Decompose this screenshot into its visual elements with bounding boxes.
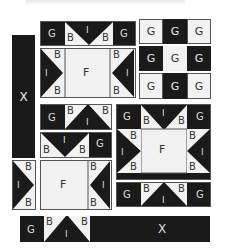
g-square: G (187, 46, 211, 71)
g-square: G (163, 46, 187, 71)
big-star-bottom-row: G B I B G (116, 182, 211, 207)
i-label: I (126, 68, 129, 78)
g-square: G (139, 73, 163, 99)
g-label: G (147, 52, 156, 65)
bottom-bar-piece: G B I B X (20, 216, 210, 242)
b-label: B (43, 145, 50, 155)
g-label: G (195, 25, 204, 38)
b-label: B (54, 50, 61, 60)
g-label: G (120, 29, 128, 39)
g-square: G (163, 73, 187, 99)
b-label: B (113, 50, 120, 60)
g-label: G (171, 52, 180, 65)
g-label: G (147, 80, 156, 93)
i-label: I (86, 117, 89, 127)
i-label: I (121, 147, 124, 157)
g-square: G (187, 73, 211, 99)
g-label: G (123, 190, 131, 200)
g-square: G (163, 19, 187, 44)
b-label: B (90, 162, 97, 172)
b-label: B (189, 162, 196, 172)
b-label: B (178, 116, 185, 126)
g-square: G (139, 19, 163, 44)
x-label: X (19, 90, 27, 104)
g-label: G (48, 113, 56, 123)
g-label: G (96, 139, 104, 149)
mid-row2-piece: B I B G (40, 132, 112, 158)
i-label: I (201, 147, 204, 157)
b-label: B (113, 86, 120, 96)
b-label: B (25, 198, 32, 208)
g-label: G (195, 52, 204, 65)
b-label: B (90, 198, 97, 208)
i-label: I (17, 180, 20, 190)
top-f-block: B I B F B I B (40, 48, 136, 98)
small-side-piece: B I B (12, 160, 36, 210)
top-edge-shadow (25, 0, 185, 5)
b-label: B (81, 217, 88, 227)
g-label: G (147, 25, 156, 38)
b-label: B (102, 33, 109, 43)
f-label: F (159, 145, 165, 155)
b-label: B (102, 106, 109, 116)
g-label: G (123, 112, 131, 122)
g-label: G (196, 112, 204, 122)
g-label: G (196, 190, 204, 200)
b-label: B (46, 217, 53, 227)
ggg-grid: G G G G G G G G G (139, 19, 211, 99)
i-label: I (86, 25, 89, 35)
b-label: B (130, 162, 137, 172)
b-label: B (67, 106, 74, 116)
g-label: G (48, 29, 56, 39)
b-label: B (178, 184, 185, 194)
x-column-piece: X (12, 35, 35, 158)
f-label: F (60, 180, 66, 190)
i-label: I (162, 195, 165, 205)
g-label: G (195, 80, 204, 93)
b-label: B (25, 162, 32, 172)
big-star-block: G B I B G B I B F B I B (116, 104, 211, 180)
g-square: G (187, 19, 211, 44)
b-label: B (79, 145, 86, 155)
b-label: B (54, 86, 61, 96)
i-label: I (65, 229, 68, 239)
x-label: X (158, 224, 166, 234)
g-label: G (171, 25, 180, 38)
f-label: F (83, 68, 89, 78)
g-label: G (171, 80, 180, 93)
b-label: B (143, 116, 150, 126)
g-label: G (27, 225, 35, 235)
i-label: I (102, 180, 105, 190)
mid-row1-piece: G B I B (40, 104, 112, 130)
g-square: G (139, 46, 163, 71)
bottom-f-block: F B I B (40, 160, 112, 210)
b-label: B (130, 131, 137, 141)
i-label: I (63, 135, 66, 145)
b-label: B (143, 184, 150, 194)
top-row-piece: G B I B G (40, 21, 136, 46)
i-label: I (45, 68, 48, 78)
b-label: B (189, 131, 196, 141)
i-label: I (162, 108, 165, 118)
b-label: B (67, 33, 74, 43)
